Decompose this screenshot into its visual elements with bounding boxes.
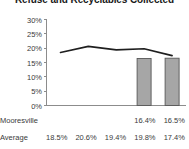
bar-mooresville-2019 [165, 58, 179, 105]
cell-mooresville-2018: 16.4% [130, 112, 159, 129]
cell-average-2017: 19.4% [101, 129, 130, 146]
cell-mooresville-2015 [42, 112, 71, 129]
ytick-label-20: 20% [27, 44, 42, 53]
ytick-label-0: 0% [31, 102, 42, 111]
bar-mooresville-2018 [137, 59, 151, 106]
ytick-label-10: 10% [27, 73, 42, 82]
plot-svg: 30% 25% 20% 15% 10% 5% 0% [0, 6, 189, 110]
row-label-mooresville: Mooresville [0, 112, 42, 129]
ytick-label-15: 15% [27, 59, 42, 68]
cell-average-2015: 18.5% [42, 129, 71, 146]
table-row: Mooresville 16.4% 16.5% [0, 112, 189, 129]
refuse-recyclables-chart: Refuse and Recyclables Collected 30% 25%… [0, 0, 189, 149]
ytick-label-5: 5% [31, 87, 42, 96]
plot-area: 30% 25% 20% 15% 10% 5% 0% [0, 6, 189, 110]
chart-title: Refuse and Recyclables Collected [0, 0, 189, 5]
line-series-average [61, 46, 173, 55]
ytick-label-25: 25% [27, 30, 42, 39]
cell-mooresville-2016 [71, 112, 100, 129]
cell-average-2018: 19.8% [130, 129, 159, 146]
ytick-label-30: 30% [27, 16, 42, 25]
row-label-average: Average [0, 129, 42, 146]
cell-average-2019: 17.4% [160, 129, 189, 146]
cell-mooresville-2019: 16.5% [160, 112, 189, 129]
data-table: Mooresville 16.4% 16.5% Average 18.5% 20… [0, 112, 189, 146]
table-row: Average 18.5% 20.6% 19.4% 19.8% 17.4% [0, 129, 189, 146]
cell-mooresville-2017 [101, 112, 130, 129]
cell-average-2016: 20.6% [71, 129, 100, 146]
